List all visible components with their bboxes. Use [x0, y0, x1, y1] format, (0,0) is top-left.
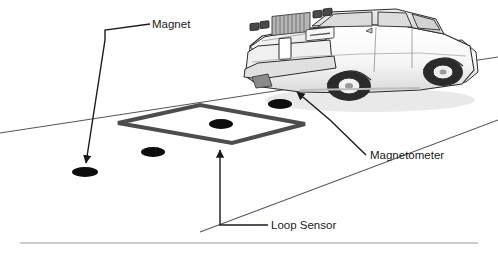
leader-line-magnet: [86, 24, 150, 163]
road-line-lower: [200, 120, 498, 232]
label-magnetometer: Magnetometer: [370, 149, 444, 161]
car-headlight-left: [250, 21, 269, 31]
label-loop-sensor: Loop Sensor: [271, 219, 336, 231]
diagram-canvas: Magnet Magnetometer Loop Sensor: [0, 0, 498, 256]
car-illustration: [244, 8, 478, 112]
diagram-figure: Magnet Magnetometer Loop Sensor: [0, 0, 498, 256]
magnetometer-device: [279, 38, 291, 60]
leader-line-loop-sensor: [220, 150, 268, 225]
label-magnet: Magnet: [152, 18, 191, 30]
car-wheel-rear: [423, 58, 463, 86]
car-air-dam: [252, 74, 272, 88]
magnet-in-loop-center-icon: [209, 119, 233, 129]
car-window-front: [378, 12, 412, 27]
magnet-under-car-front-icon: [268, 99, 292, 109]
magnet-left-of-loop-icon: [141, 147, 165, 157]
magnet-callout-target-icon: [72, 167, 98, 177]
